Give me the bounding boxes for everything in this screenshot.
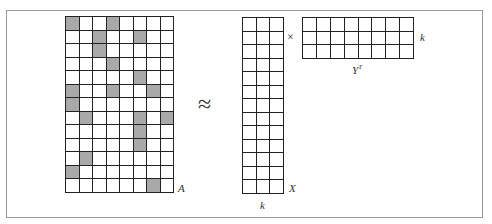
matrix-x-cell (243, 59, 257, 73)
matrix-a-cell (161, 139, 175, 153)
matrix-a-cell (161, 31, 175, 45)
matrix-a-cell-shaded (93, 44, 107, 58)
matrix-a-cell-shaded (66, 166, 80, 180)
matrix-a-cell-shaded (134, 125, 148, 139)
matrix-a-cell (80, 179, 94, 193)
matrix-a-cell (66, 112, 80, 126)
matrix-a-cell-shaded (134, 31, 148, 45)
matrix-a-cell (93, 166, 107, 180)
matrix-yt-cell (400, 18, 414, 32)
matrix-a-cell (120, 58, 134, 72)
matrix-yt-cell (359, 45, 373, 59)
matrix-a-cell-shaded (93, 31, 107, 45)
matrix-x-cell (243, 140, 257, 154)
matrix-a-cell (107, 98, 121, 112)
matrix-a-cell (161, 98, 175, 112)
matrix-a-cell (161, 85, 175, 99)
matrix-a-cell (147, 166, 161, 180)
matrix-x-cell (257, 167, 271, 181)
matrix-a-cell (120, 125, 134, 139)
matrix-x-cell (270, 59, 284, 73)
matrix-x-cell (257, 72, 271, 86)
matrix-a-cell (93, 17, 107, 31)
matrix-a-cell (161, 58, 175, 72)
matrix-yt-label: YT (352, 64, 362, 76)
matrix-a-cell-shaded (134, 71, 148, 85)
matrix-a-cell (80, 139, 94, 153)
matrix-a-cell-shaded (161, 112, 175, 126)
matrix-a-cell (107, 125, 121, 139)
matrix-x-cell (257, 126, 271, 140)
matrix-yt-cell (372, 32, 386, 46)
matrix-a-cell (93, 125, 107, 139)
matrix-x-cell (270, 32, 284, 46)
matrix-yt-dim-label: k (420, 32, 425, 43)
matrix-a-cell (147, 58, 161, 72)
matrix-x-cell (243, 153, 257, 167)
matrix-a-cell-shaded (66, 85, 80, 99)
matrix-a-cell (120, 112, 134, 126)
matrix-a-cell (107, 44, 121, 58)
matrix-yt-cell (400, 45, 414, 59)
matrix-yt-cell (386, 45, 400, 59)
matrix-a-cell (120, 139, 134, 153)
matrix-x-cell (270, 140, 284, 154)
matrix-a-cell (93, 98, 107, 112)
matrix-a-cell (107, 31, 121, 45)
matrix-a-cell (134, 17, 148, 31)
matrix-a-cell (161, 17, 175, 31)
matrix-x-cell (270, 153, 284, 167)
matrix-a-cell (107, 179, 121, 193)
matrix-a-cell (66, 125, 80, 139)
matrix-a-cell (93, 139, 107, 153)
matrix-a-cell (80, 58, 94, 72)
matrix-a-cell (80, 17, 94, 31)
matrix-x-cell (243, 72, 257, 86)
matrix-a-cell (134, 58, 148, 72)
matrix-x-cell (257, 140, 271, 154)
matrix-x-cell (270, 126, 284, 140)
matrix-a-cell (93, 112, 107, 126)
matrix-x-cell (257, 32, 271, 46)
matrix-yt-cell (345, 32, 359, 46)
matrix-a-cell (93, 71, 107, 85)
matrix-x-cell (243, 86, 257, 100)
matrix-yt-cell (400, 32, 414, 46)
matrix-x-cell (270, 18, 284, 32)
matrix-yt-grid (302, 17, 414, 59)
matrix-x-cell (243, 113, 257, 127)
matrix-a-cell (120, 166, 134, 180)
matrix-a-cell (107, 71, 121, 85)
matrix-a-cell (147, 112, 161, 126)
matrix-x-cell (243, 99, 257, 113)
matrix-yt-cell (345, 18, 359, 32)
matrix-a-cell-shaded (107, 58, 121, 72)
matrix-yt-cell (386, 18, 400, 32)
matrix-yt-cell (331, 18, 345, 32)
matrix-a-cell (93, 152, 107, 166)
matrix-yt-cell (331, 45, 345, 59)
matrix-yt-cell (372, 18, 386, 32)
matrix-a-cell (161, 71, 175, 85)
matrix-a-cell-shaded (66, 17, 80, 31)
matrix-a-label: A (178, 183, 185, 194)
matrix-a-cell (107, 166, 121, 180)
matrix-a-cell (120, 44, 134, 58)
matrix-x-cell (270, 99, 284, 113)
matrix-yt-cell (317, 45, 331, 59)
matrix-a-cell (120, 17, 134, 31)
matrix-a-cell (120, 71, 134, 85)
matrix-a-cell (147, 139, 161, 153)
matrix-yt-cell (386, 32, 400, 46)
matrix-a-cell (161, 125, 175, 139)
matrix-x-cell (270, 113, 284, 127)
approx-symbol: ≈ (198, 92, 211, 116)
matrix-a-cell (80, 31, 94, 45)
matrix-a-cell (66, 58, 80, 72)
matrix-x-cell (243, 167, 257, 181)
matrix-a-cell (134, 179, 148, 193)
matrix-x-cell (257, 18, 271, 32)
matrix-x-cell (257, 99, 271, 113)
matrix-x-cell (257, 180, 271, 194)
matrix-a-cell (147, 17, 161, 31)
